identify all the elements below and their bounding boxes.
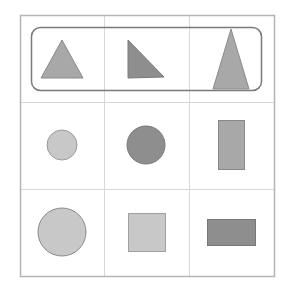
- shape-grid-diagram: [0, 0, 289, 293]
- triangle-isosceles: [41, 40, 83, 78]
- circle-small: [47, 130, 77, 160]
- square: [129, 214, 166, 252]
- triangle-right: [128, 40, 164, 78]
- rectangle-horizontal-dark: [208, 220, 256, 246]
- circle-medium-dark: [127, 126, 165, 164]
- circle-large: [38, 208, 86, 256]
- triangle-tall: [213, 29, 249, 89]
- rectangle-vertical: [219, 121, 245, 170]
